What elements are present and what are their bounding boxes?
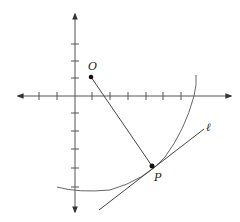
- point-P: [150, 164, 155, 169]
- tangent-line-l: [99, 129, 204, 210]
- point-O: [89, 75, 94, 80]
- curve: [57, 75, 196, 191]
- label-O: O: [88, 60, 97, 73]
- label-line-l: ℓ: [206, 121, 211, 134]
- coordinate-diagram: O P ℓ: [0, 0, 240, 222]
- label-P: P: [153, 171, 162, 184]
- segment-OP: [91, 77, 152, 166]
